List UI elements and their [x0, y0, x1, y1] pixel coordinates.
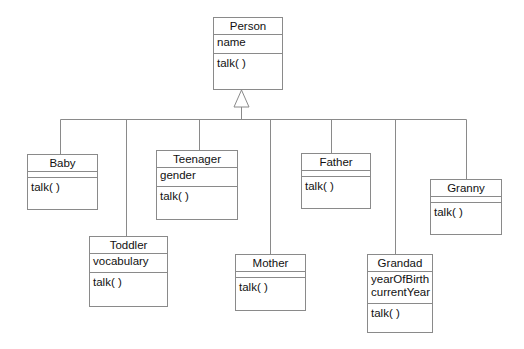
operation: talk( ) — [160, 190, 234, 203]
operation: talk( ) — [93, 276, 164, 289]
operation: talk( ) — [217, 57, 279, 70]
operation: talk( ) — [239, 281, 302, 294]
class-name: Granny — [431, 180, 501, 197]
attribute: name — [217, 36, 279, 49]
class-toddler: Toddler vocabulary talk( ) — [89, 236, 168, 307]
class-operations: talk( ) — [368, 304, 432, 323]
class-person: Person name talk( ) — [213, 17, 283, 90]
class-father: Father talk( ) — [301, 153, 371, 209]
class-name: Baby — [28, 155, 97, 172]
class-operations: talk( ) — [157, 187, 237, 206]
operation: talk( ) — [31, 181, 94, 194]
class-attributes: yearOfBirth currentYear — [368, 272, 432, 304]
operation: talk( ) — [371, 307, 429, 320]
class-operations: talk( ) — [236, 278, 305, 297]
class-operations: talk( ) — [302, 177, 370, 196]
class-name: Mother — [236, 255, 305, 272]
class-name: Person — [214, 18, 282, 35]
class-grandad: Grandad yearOfBirth currentYear talk( ) — [367, 254, 433, 333]
class-granny: Granny talk( ) — [430, 179, 502, 235]
class-attributes: name — [214, 35, 282, 54]
class-name: Grandad — [368, 255, 432, 272]
class-name: Toddler — [90, 237, 167, 254]
attribute: vocabulary — [93, 255, 164, 268]
class-mother: Mother talk( ) — [235, 254, 306, 311]
class-teenager: Teenager gender talk( ) — [156, 150, 238, 220]
attribute: yearOfBirth — [371, 273, 429, 286]
class-operations: talk( ) — [431, 203, 501, 222]
class-operations: talk( ) — [28, 178, 97, 197]
operation: talk( ) — [434, 206, 498, 219]
class-attributes: vocabulary — [90, 254, 167, 273]
class-operations: talk( ) — [214, 54, 282, 73]
class-operations: talk( ) — [90, 273, 167, 292]
attribute: currentYear — [371, 286, 429, 299]
generalization-arrow-icon — [234, 90, 249, 107]
class-baby: Baby talk( ) — [27, 154, 98, 210]
class-name: Father — [302, 154, 370, 171]
attribute: gender — [160, 169, 234, 182]
operation: talk( ) — [305, 180, 367, 193]
class-attributes: gender — [157, 168, 237, 187]
class-name: Teenager — [157, 151, 237, 168]
